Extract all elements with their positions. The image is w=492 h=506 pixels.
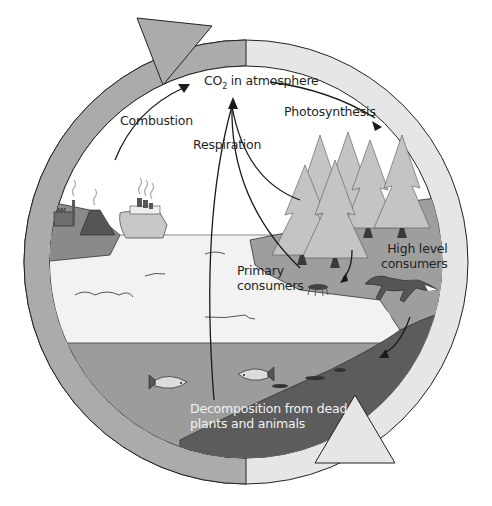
carbon-cycle-diagram: CO2 in atmosphere Combustion Respiration… — [0, 0, 492, 506]
label-primary-consumers: Primaryconsumers — [237, 263, 304, 293]
label-combustion: Combustion — [120, 113, 193, 128]
label-photosynthesis: Photosynthesis — [284, 104, 376, 119]
label-decomposition: Decomposition from deadplants and animal… — [190, 401, 347, 431]
label-co2-atmosphere: CO2 in atmosphere — [204, 73, 319, 94]
label-high-level-consumers: High levelconsumers — [381, 241, 448, 271]
label-respiration: Respiration — [193, 137, 261, 152]
